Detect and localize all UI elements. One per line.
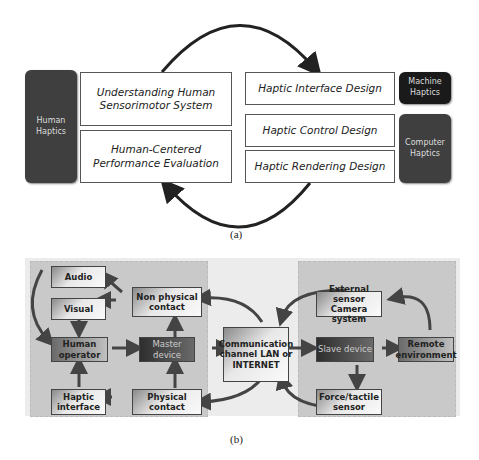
machine-haptics-label: Machine Haptics [399, 72, 451, 104]
sensorimotor-box: Understanding Human Sensorimotor System [80, 72, 232, 126]
computer-haptics-label: Computer Haptics [399, 114, 451, 183]
master-device-node: Master device [139, 337, 195, 362]
control-design-box: Haptic Control Design [245, 114, 395, 147]
external-sensor-node: External sensor Camera system [316, 291, 382, 317]
remote-environment-node: Remote environment [398, 337, 454, 362]
interface-design-box: Haptic Interface Design [245, 72, 395, 105]
haptic-interface-node: Haptic interface [51, 389, 106, 415]
communication-channel-node: Communication channel LAN or INTERNET [223, 327, 289, 382]
physical-contact-node: Physical contact [132, 389, 202, 415]
non-physical-contact-node: Non physical contact [132, 287, 202, 317]
force-tactile-sensor-node: Force/tactile sensor [316, 389, 382, 415]
human-operator-node: Human operator [51, 337, 108, 362]
audio-node: Audio [51, 266, 106, 288]
rendering-design-box: Haptic Rendering Design [245, 150, 395, 183]
slave-device-node: Slave device [316, 337, 374, 362]
caption-b: (b) [230, 433, 243, 445]
visual-node: Visual [51, 298, 106, 320]
performance-evaluation-box: Human-Centered Performance Evaluation [80, 130, 232, 183]
human-haptics-label: Human Haptics [25, 70, 77, 183]
caption-a: (a) [230, 228, 242, 240]
